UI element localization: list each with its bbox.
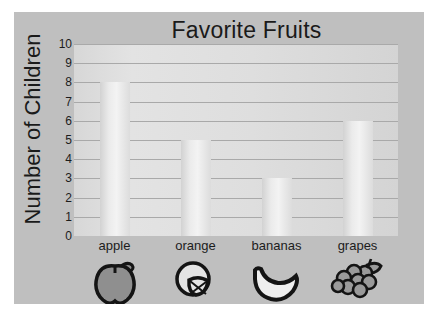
y-axis-tick-label: 5 xyxy=(65,134,72,146)
x-axis-tick-label: bananas xyxy=(252,238,302,253)
x-axis-tick-label: grapes xyxy=(338,238,378,253)
y-axis-tick-label: 4 xyxy=(65,153,72,165)
x-axis-tick-label: orange xyxy=(175,238,215,253)
apple-icon xyxy=(84,256,146,304)
plot-area xyxy=(74,44,398,236)
y-axis-tick-label: 6 xyxy=(65,115,72,127)
y-axis-tick-label: 2 xyxy=(65,192,72,204)
grapes-icon xyxy=(327,256,389,304)
x-axis-tick-label: apple xyxy=(99,238,131,253)
bar-grapes xyxy=(343,121,373,236)
chart-title: Favorite Fruits xyxy=(74,16,419,44)
bar-bananas xyxy=(262,178,292,236)
bar-orange xyxy=(181,140,211,236)
y-axis-title: Number of Children xyxy=(20,24,46,234)
y-axis-tick-label: 7 xyxy=(65,96,72,108)
y-axis-tick-label: 9 xyxy=(65,57,72,69)
y-axis-tick-label: 8 xyxy=(65,76,72,88)
bar-apple xyxy=(100,82,130,236)
y-axis-tick-label: 3 xyxy=(65,172,72,184)
orange-icon xyxy=(165,256,227,304)
y-axis-tick-labels: 012345678910 xyxy=(50,44,72,236)
x-axis-tick-labels: appleorangebananasgrapes xyxy=(74,238,398,256)
y-axis-tick-label: 0 xyxy=(65,230,72,242)
gridline xyxy=(74,63,398,64)
banana-icon xyxy=(246,256,308,304)
chart-canvas: Favorite Fruits Number of Children 01234… xyxy=(14,12,424,304)
fruit-icon-row xyxy=(74,256,398,304)
gridline xyxy=(74,44,398,45)
y-axis-tick-label: 10 xyxy=(59,38,72,50)
y-axis-tick-label: 1 xyxy=(65,211,72,223)
